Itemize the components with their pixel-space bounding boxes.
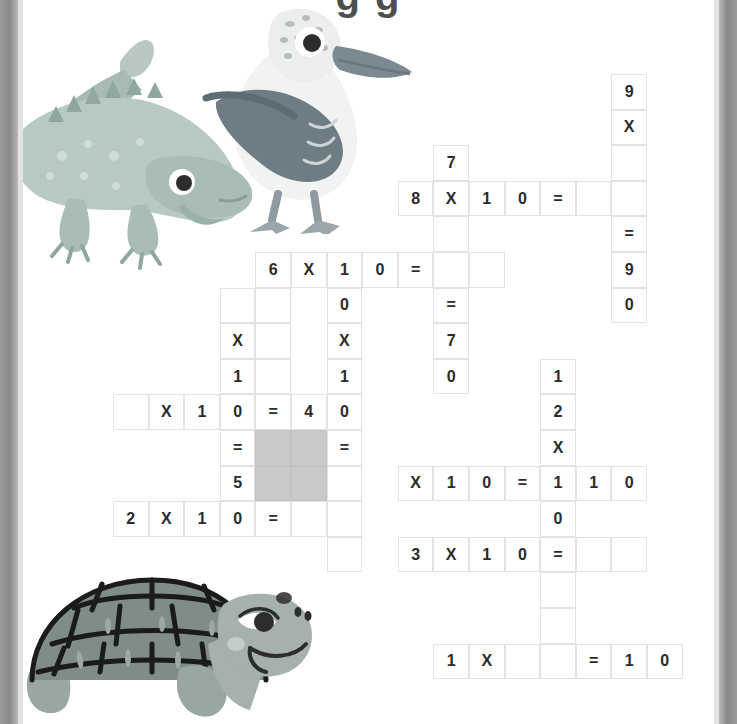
r5c8-equals[interactable]: = [398, 252, 434, 288]
r12c5-blank[interactable] [291, 501, 327, 537]
r5c4-6[interactable]: 6 [255, 252, 291, 288]
r13c11-0[interactable]: 0 [505, 537, 541, 573]
r16c14-1[interactable]: 1 [611, 644, 647, 680]
r7c6-times[interactable]: X [327, 323, 363, 359]
r11c13-1[interactable]: 1 [576, 466, 612, 502]
r3c13-blank[interactable] [576, 181, 612, 217]
r11c8-times[interactable]: X [398, 466, 434, 502]
r3c10-1[interactable]: 1 [469, 181, 505, 217]
r5c7-0[interactable]: 0 [362, 252, 398, 288]
r13c10-1[interactable]: 1 [469, 537, 505, 573]
r9c12-2[interactable]: 2 [540, 394, 576, 430]
r12c6-blank[interactable] [327, 501, 363, 537]
r13c12-equals[interactable]: = [540, 537, 576, 573]
r5c10-blank[interactable] [469, 252, 505, 288]
r5c6-1[interactable]: 1 [327, 252, 363, 288]
r16c9-1[interactable]: 1 [433, 644, 469, 680]
r16c11-blank[interactable] [505, 644, 541, 680]
r6c14-0[interactable]: 0 [611, 288, 647, 324]
r11c14-0[interactable]: 0 [611, 466, 647, 502]
puzzle-grid: 9X78X10==6X10=90=0XX71101X10=402==X5X10=… [0, 0, 737, 724]
r6c4-blank[interactable] [255, 288, 291, 324]
r3c12-equals[interactable]: = [540, 181, 576, 217]
r11c11-equals[interactable]: = [505, 466, 541, 502]
page-edge-left [0, 0, 18, 724]
r9c4-equals[interactable]: = [255, 394, 291, 430]
r10c12-times[interactable]: X [540, 430, 576, 466]
r8c12-1[interactable]: 1 [540, 359, 576, 395]
r3c14-blank[interactable] [611, 181, 647, 217]
page-fold-left [18, 0, 23, 724]
r11c9-1[interactable]: 1 [433, 466, 469, 502]
r15c12-blank[interactable] [540, 608, 576, 644]
r8c9-0[interactable]: 0 [433, 359, 469, 395]
r9c6-0[interactable]: 0 [327, 394, 363, 430]
r13c13-blank[interactable] [576, 537, 612, 573]
r11c5-blocked[interactable] [291, 466, 327, 502]
r11c12-1[interactable]: 1 [540, 466, 576, 502]
r14c12-blank[interactable] [540, 572, 576, 608]
r11c6-blank[interactable] [327, 466, 363, 502]
r9c3-0[interactable]: 0 [220, 394, 256, 430]
r13c6-blank[interactable] [327, 537, 363, 573]
r8c3-1[interactable]: 1 [220, 359, 256, 395]
r9c5-4[interactable]: 4 [291, 394, 327, 430]
r9c0-blank[interactable] [113, 394, 149, 430]
r3c11-0[interactable]: 0 [505, 181, 541, 217]
r3c9-times[interactable]: X [433, 181, 469, 217]
worksheet-page: g g [0, 0, 737, 724]
r9c2-1[interactable]: 1 [184, 394, 220, 430]
r12c0-2[interactable]: 2 [113, 501, 149, 537]
r16c15-0[interactable]: 0 [647, 644, 683, 680]
r11c10-0[interactable]: 0 [469, 466, 505, 502]
r5c5-times[interactable]: X [291, 252, 327, 288]
r7c9-7[interactable]: 7 [433, 323, 469, 359]
r6c9-equals[interactable]: = [433, 288, 469, 324]
page-edge-right [719, 0, 737, 724]
r11c4-blocked[interactable] [255, 466, 291, 502]
r3c8-8[interactable]: 8 [398, 181, 434, 217]
r10c3-equals[interactable]: = [220, 430, 256, 466]
r8c4-blank[interactable] [255, 359, 291, 395]
r13c8-3[interactable]: 3 [398, 537, 434, 573]
r13c14-blank[interactable] [611, 537, 647, 573]
r5c14-9[interactable]: 9 [611, 252, 647, 288]
r16c12-blank[interactable] [540, 644, 576, 680]
r8c6-1[interactable]: 1 [327, 359, 363, 395]
r1c14-times[interactable]: X [611, 110, 647, 146]
r12c12-0[interactable]: 0 [540, 501, 576, 537]
r12c4-equals[interactable]: = [255, 501, 291, 537]
r10c4-blocked[interactable] [255, 430, 291, 466]
r9c1-times[interactable]: X [149, 394, 185, 430]
r7c3-times[interactable]: X [220, 323, 256, 359]
r5c9-blank[interactable] [433, 252, 469, 288]
r12c3-0[interactable]: 0 [220, 501, 256, 537]
r6c3-blank[interactable] [220, 288, 256, 324]
r2c14-blank[interactable] [611, 145, 647, 181]
r11c3-5[interactable]: 5 [220, 466, 256, 502]
r13c9-times[interactable]: X [433, 537, 469, 573]
r10c5-blocked[interactable] [291, 430, 327, 466]
r16c10-times[interactable]: X [469, 644, 505, 680]
r4c9-blank[interactable] [433, 216, 469, 252]
r0c14-9[interactable]: 9 [611, 74, 647, 110]
r7c4-blank[interactable] [255, 323, 291, 359]
r6c6-0[interactable]: 0 [327, 288, 363, 324]
r2c9-7[interactable]: 7 [433, 145, 469, 181]
r4c14-equals[interactable]: = [611, 216, 647, 252]
r12c2-1[interactable]: 1 [184, 501, 220, 537]
r16c13-equals[interactable]: = [576, 644, 612, 680]
r12c1-times[interactable]: X [149, 501, 185, 537]
r10c6-equals[interactable]: = [327, 430, 363, 466]
